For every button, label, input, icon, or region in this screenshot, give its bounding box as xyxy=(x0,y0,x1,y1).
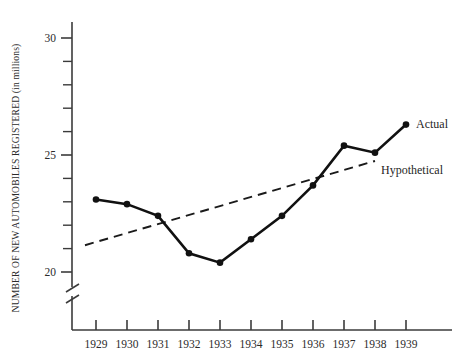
data-point xyxy=(186,250,193,257)
data-point xyxy=(310,182,317,189)
data-point xyxy=(248,236,255,243)
data-point xyxy=(403,121,410,128)
data-point xyxy=(93,196,100,203)
y-axis-title: NUMBER OF NEW AUTOMOBILES REGISTERED (in… xyxy=(10,44,22,313)
x-tick-label-1935: 1935 xyxy=(271,338,294,350)
series-markers-actual xyxy=(93,121,410,266)
y-axis-tick-labels: 30 25 20 xyxy=(45,32,57,278)
x-tick-label-1938: 1938 xyxy=(364,338,387,350)
x-tick-label-1931: 1931 xyxy=(147,338,170,350)
x-tick-label-1933: 1933 xyxy=(209,338,232,350)
y-axis-ticks xyxy=(61,38,72,272)
line-chart: NUMBER OF NEW AUTOMOBILES REGISTERED (in… xyxy=(0,0,455,363)
data-point xyxy=(217,259,224,266)
data-point xyxy=(341,142,348,149)
y-tick-label-20: 20 xyxy=(45,266,57,278)
x-tick-label-1932: 1932 xyxy=(178,338,201,350)
x-tick-label-1939: 1939 xyxy=(395,338,418,350)
x-tick-label-1937: 1937 xyxy=(333,338,356,350)
x-tick-label-1934: 1934 xyxy=(240,338,263,350)
data-point xyxy=(155,213,162,220)
x-tick-label-1929: 1929 xyxy=(85,338,108,350)
y-tick-label-25: 25 xyxy=(45,149,57,161)
series-label-hypothetical: Hypothetical xyxy=(381,163,444,177)
series-label-actual: Actual xyxy=(416,117,449,131)
x-axis-ticks xyxy=(96,320,406,330)
data-point xyxy=(124,201,131,208)
x-tick-label-1936: 1936 xyxy=(302,338,325,350)
chart-canvas: NUMBER OF NEW AUTOMOBILES REGISTERED (in… xyxy=(0,0,455,363)
y-tick-label-30: 30 xyxy=(45,32,57,44)
data-point xyxy=(372,149,379,156)
x-axis-tick-labels: 1929 1930 1931 1932 1933 1934 1935 1936 … xyxy=(85,338,418,350)
data-point xyxy=(279,213,286,220)
x-tick-label-1930: 1930 xyxy=(116,338,139,350)
